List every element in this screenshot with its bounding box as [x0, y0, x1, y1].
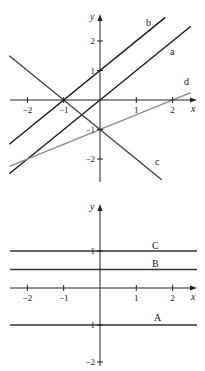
bottom-y-tick-label: −2	[85, 357, 95, 367]
bottom-series-label-A: A	[154, 312, 162, 323]
bottom-x-tick-label: −2	[23, 293, 33, 303]
bottom-y-tick-label: 1	[91, 320, 96, 330]
bottom-y-axis-title: y	[89, 201, 95, 212]
bottom-labels: CBAxy−2−11211−2	[23, 201, 196, 367]
bottom-x-axis-title: x	[190, 291, 196, 302]
bottom-x-axis-arrow-icon	[190, 286, 197, 291]
bottom-series-label-C: C	[152, 240, 159, 251]
bottom-chart: CBAxy−2−11211−2	[0, 0, 205, 371]
bottom-x-tick-label: 2	[170, 293, 175, 303]
bottom-series-label-B: B	[152, 258, 159, 269]
bottom-x-tick-label: −1	[59, 293, 69, 303]
bottom-x-tick-label: 1	[134, 293, 139, 303]
bottom-y-tick-label: 1	[91, 246, 96, 256]
bottom-y-axis-arrow-icon	[98, 204, 103, 211]
bottom-axes	[10, 204, 197, 366]
